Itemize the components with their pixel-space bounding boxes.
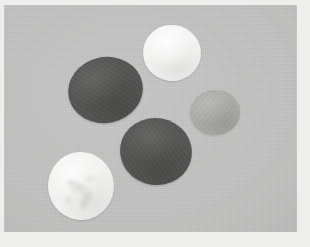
disc-gray-right-texture <box>188 88 242 138</box>
disc-gray-right <box>188 88 242 138</box>
disc-white-top-texture <box>139 21 204 85</box>
disc-white-bottom <box>46 150 117 222</box>
photo-field <box>4 5 297 232</box>
disc-dark-center <box>115 112 198 190</box>
screenshot-root <box>0 0 310 247</box>
disc-white-top <box>139 21 204 85</box>
disc-white-bottom-texture <box>46 150 117 222</box>
disc-dark-left <box>62 50 149 130</box>
disc-dark-left-texture <box>62 50 149 130</box>
disc-dark-center-texture <box>115 112 198 190</box>
